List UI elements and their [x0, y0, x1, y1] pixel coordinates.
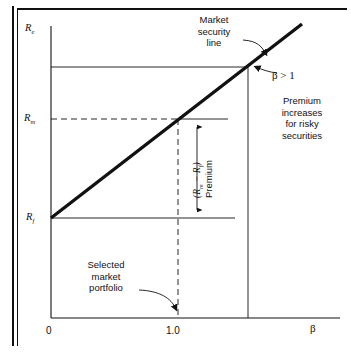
leader-selected-portfolio: [139, 290, 176, 309]
premium-text-1: Premium: [263, 95, 341, 107]
y-tick-label-Rm: Rm: [24, 112, 35, 128]
callout-beta-greater-than-one: β > 1: [272, 70, 295, 82]
callout-market-line-3: line: [183, 37, 245, 49]
selected-portfolio-1: Selected: [73, 259, 139, 271]
risk-premium-math: (Rm − Rf): [192, 162, 202, 198]
premium-text-4: securities: [263, 130, 341, 142]
callout-market-security-line: Market security line: [183, 14, 245, 49]
selected-portfolio-3: portfolio: [73, 282, 139, 294]
callout-selected-market-portfolio: Selected market portfolio: [73, 259, 139, 294]
x-axis-label-beta: β: [310, 323, 316, 335]
leader-market-security-line: [243, 40, 266, 54]
y-tick-label-Rf: Rf: [26, 211, 34, 227]
y-tick-label-Re: Re: [25, 22, 34, 38]
figure-canvas: Re Rm Rf 0 1.0 β Market security line β …: [0, 0, 351, 352]
premium-text-3: for risky: [263, 118, 341, 130]
selected-portfolio-2: market: [73, 271, 139, 283]
callout-premium-increases: Premium increases for risky securities: [263, 95, 341, 141]
label-risk-premium-word: Premium: [203, 160, 214, 198]
callout-market-line-2: security: [183, 26, 245, 38]
x-tick-label-1: 1.0: [166, 325, 180, 337]
premium-text-2: increases: [263, 107, 341, 119]
x-tick-label-0: 0: [46, 325, 52, 337]
callout-market-line-1: Market: [183, 14, 245, 26]
security-market-line-plot: [0, 0, 351, 352]
